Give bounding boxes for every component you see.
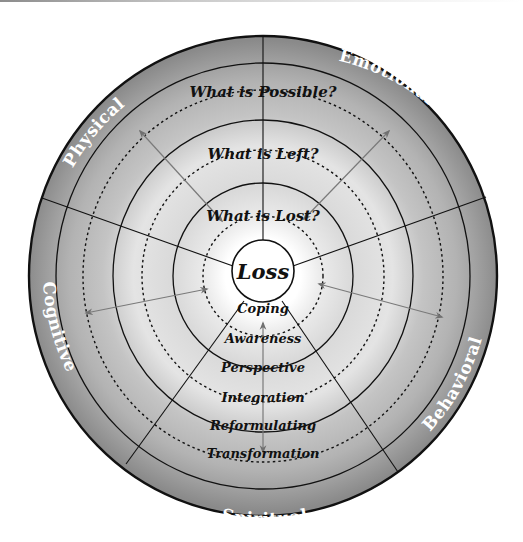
center-node: Loss [232,240,294,302]
stage-transformation: Transformation [206,446,319,461]
question-what-is-lost: What is Lost? [206,207,320,225]
center-label: Loss [236,259,290,284]
loss-wheel-diagram: Loss What is Lost? What is Left? What is… [0,0,523,542]
stage-integration: Integration [220,390,304,405]
question-what-is-possible: What is Possible? [190,83,337,101]
question-what-is-left: What is Left? [207,145,318,163]
stage-reformulating: Reformulating [209,418,316,433]
stage-awareness: Awareness [223,331,302,346]
stage-perspective: Perspective [220,360,305,375]
stage-coping: Coping [237,301,289,316]
